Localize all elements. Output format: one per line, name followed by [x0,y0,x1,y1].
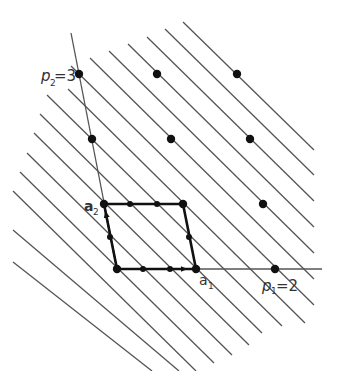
label-a2: a 2 [84,198,99,217]
lattice-plane-line [13,191,196,371]
lattice-point [246,135,254,143]
lattice-point [88,135,96,143]
edge-point [127,201,133,207]
label-a1: a 1 [199,272,214,291]
edge-point [140,266,146,272]
svg-text:=2: =2 [276,277,298,295]
svg-text:p: p [261,277,272,295]
edge-point [154,201,160,207]
lattice-point [259,200,267,208]
lattice-plane-line [183,22,314,150]
svg-text:p: p [40,67,51,85]
svg-text:a: a [199,272,208,288]
lattice-plane-line [47,95,282,326]
edge-point [186,234,192,240]
edge-intersection-points [107,201,192,272]
lattice-plane-line [34,133,249,345]
svg-text:1: 1 [208,281,214,291]
svg-text:2: 2 [93,207,99,217]
lattice-plane-line [27,153,232,355]
lattice-plane-line [13,262,152,371]
edge-point [167,266,173,272]
label-p1: p 1 =2 [261,277,298,296]
lattice-point [167,135,175,143]
lattice-plane-line [109,51,314,253]
lattice-point [153,70,161,78]
lattice-point [233,70,241,78]
lattice-point [100,200,108,208]
lattice-diagram: a 1 a 2 p 1 =2 p 2 =3 [0,0,339,371]
edge-point [107,234,113,240]
lattice-point [271,265,279,273]
svg-text:=3: =3 [54,67,76,85]
parallelogram-outline [104,204,196,269]
label-p2: p 2 =3 [40,67,76,88]
lattice-point [179,200,187,208]
fundamental-parallelogram [104,204,196,269]
lattice-point [113,265,121,273]
lattice-plane-line [147,37,314,201]
